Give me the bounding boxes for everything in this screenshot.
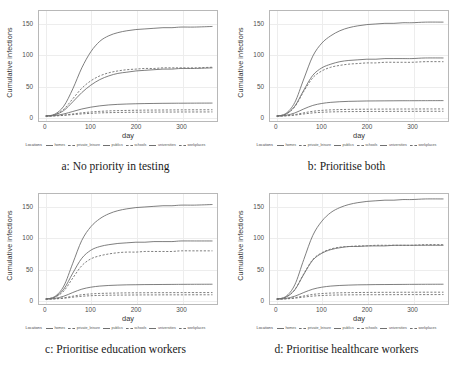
legend-item-universities[interactable]: universities xyxy=(149,326,175,330)
legend-item-publics[interactable]: publics xyxy=(334,326,354,330)
legend-item-schools[interactable]: schools xyxy=(126,326,147,330)
series-line-schools xyxy=(46,110,213,116)
y-tick-label: 0 xyxy=(29,114,33,121)
legend-swatch-icon xyxy=(68,328,75,329)
legend-item-label: universities xyxy=(389,326,407,330)
plot-canvas-b xyxy=(269,10,449,122)
legend-swatch-icon xyxy=(103,328,110,329)
legend-item-publics[interactable]: publics xyxy=(103,143,123,147)
y-axis-label-text: Cumulative infections xyxy=(5,27,14,97)
x-tick-label: 100 xyxy=(316,123,327,130)
legend-item-label: publics xyxy=(343,326,354,330)
legend-swatch-icon xyxy=(357,145,364,146)
legend-swatch-icon xyxy=(410,328,417,329)
plot-area-a: Cumulative infections0501001500100200300… xyxy=(0,0,231,148)
legend-swatch-icon xyxy=(299,328,306,329)
legend-item-private_leisure[interactable]: private_leisure xyxy=(68,143,100,147)
legend-swatch-icon xyxy=(126,328,133,329)
panel-caption-b: b: Prioritise both xyxy=(231,160,462,172)
x-tick-label: 300 xyxy=(407,306,418,313)
legend-item-schools[interactable]: schools xyxy=(357,326,378,330)
legend-item-label: workplaces xyxy=(418,326,436,330)
series-lines xyxy=(270,194,448,304)
plot-area-b: Cumulative infections0501001500100200300… xyxy=(231,0,462,148)
legend-swatch-icon xyxy=(179,145,186,146)
legend-item-label: homes xyxy=(285,143,296,147)
panel-caption-a: a: No priority in testing xyxy=(0,160,231,172)
legend-item-publics[interactable]: publics xyxy=(103,326,123,330)
y-tick-label: 50 xyxy=(26,82,33,89)
x-axis-label: day xyxy=(38,314,218,323)
y-tick-label: 50 xyxy=(257,265,264,272)
legend-item-workplaces[interactable]: workplaces xyxy=(410,143,436,147)
legend-item-workplaces[interactable]: workplaces xyxy=(179,326,205,330)
legend-swatch-icon xyxy=(299,145,306,146)
x-tick-label: 300 xyxy=(176,306,187,313)
series-line-publics xyxy=(46,241,213,299)
x-tick-label: 200 xyxy=(131,306,142,313)
legend-item-label: workplaces xyxy=(187,326,205,330)
panel-caption-c: c: Prioritise education workers xyxy=(0,343,231,355)
x-axis-label: day xyxy=(269,314,449,323)
legend-item-workplaces[interactable]: workplaces xyxy=(410,326,436,330)
legend-item-private_leisure[interactable]: private_leisure xyxy=(68,326,100,330)
y-tick-label: 150 xyxy=(22,202,33,209)
series-line-workplaces xyxy=(46,112,213,116)
x-axis-label: day xyxy=(269,131,449,140)
y-tick-label: 150 xyxy=(253,202,264,209)
legend-swatch-icon xyxy=(380,328,387,329)
legend-item-label: schools xyxy=(365,143,377,147)
y-axis-ticks: 050100150 xyxy=(14,193,36,305)
legend-item-label: private_leisure xyxy=(77,326,100,330)
legend-item-label: publics xyxy=(112,326,123,330)
series-line-universities xyxy=(277,284,444,299)
y-tick-label: 0 xyxy=(260,297,264,304)
series-line-private_leisure xyxy=(46,251,213,299)
y-tick-label: 100 xyxy=(22,51,33,58)
legend-item-universities[interactable]: universities xyxy=(380,326,406,330)
y-axis-ticks: 050100150 xyxy=(14,10,36,122)
x-tick-label: 0 xyxy=(43,306,47,313)
chart-legend: Locationshomesprivate_leisurepublicsscho… xyxy=(231,143,462,147)
legend-item-label: publics xyxy=(112,143,123,147)
y-axis-ticks: 050100150 xyxy=(245,193,267,305)
chart-panel-c: Cumulative infections0501001500100200300… xyxy=(0,183,231,367)
legend-item-private_leisure[interactable]: private_leisure xyxy=(299,143,331,147)
x-tick-label: 100 xyxy=(85,306,96,313)
legend-item-homes[interactable]: homes xyxy=(277,143,296,147)
legend-swatch-icon xyxy=(334,145,341,146)
legend-item-label: private_leisure xyxy=(308,143,331,147)
legend-swatch-icon xyxy=(149,145,156,146)
y-tick-label: 100 xyxy=(22,234,33,241)
y-tick-label: 50 xyxy=(26,265,33,272)
legend-item-universities[interactable]: universities xyxy=(380,143,406,147)
legend-swatch-icon xyxy=(380,145,387,146)
legend-item-label: publics xyxy=(343,143,354,147)
legend-item-schools[interactable]: schools xyxy=(357,143,378,147)
x-tick-label: 300 xyxy=(407,123,418,130)
series-line-publics xyxy=(277,245,444,299)
legend-title: Locations xyxy=(26,326,42,330)
plot-area-c: Cumulative infections0501001500100200300… xyxy=(0,183,231,331)
legend-item-publics[interactable]: publics xyxy=(334,143,354,147)
legend-swatch-icon xyxy=(103,145,110,146)
legend-item-homes[interactable]: homes xyxy=(46,326,65,330)
legend-item-universities[interactable]: universities xyxy=(149,143,175,147)
legend-item-private_leisure[interactable]: private_leisure xyxy=(299,326,331,330)
legend-swatch-icon xyxy=(126,145,133,146)
legend-item-homes[interactable]: homes xyxy=(277,326,296,330)
plot-canvas-c xyxy=(38,193,218,305)
legend-swatch-icon xyxy=(46,328,53,329)
legend-item-schools[interactable]: schools xyxy=(126,143,147,147)
panel-caption-d: d: Prioritise healthcare workers xyxy=(231,343,462,355)
x-tick-label: 100 xyxy=(85,123,96,130)
chart-panel-a: Cumulative infections0501001500100200300… xyxy=(0,0,231,183)
legend-item-workplaces[interactable]: workplaces xyxy=(179,143,205,147)
legend-item-label: universities xyxy=(158,143,176,147)
legend-item-label: homes xyxy=(54,326,65,330)
legend-item-homes[interactable]: homes xyxy=(46,143,65,147)
legend-swatch-icon xyxy=(68,145,75,146)
chart-legend: Locationshomesprivate_leisurepublicsscho… xyxy=(0,143,231,147)
legend-item-label: private_leisure xyxy=(77,143,100,147)
y-tick-label: 0 xyxy=(29,297,33,304)
